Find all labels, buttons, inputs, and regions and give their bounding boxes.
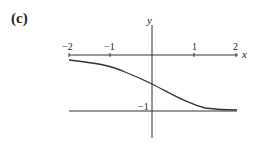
curve	[69, 60, 237, 110]
y-axis-label: y	[146, 14, 152, 26]
x-axis-label: x	[241, 48, 247, 60]
x-tick-2: 2	[233, 41, 238, 52]
x-tick-neg2: −2	[62, 41, 73, 52]
x-tick-neg1: −1	[104, 41, 115, 52]
x-tick-1: 1	[192, 41, 197, 52]
graph: (c) y x −2 −1 1 2 −1	[0, 0, 254, 144]
y-tick-neg1: −1	[138, 101, 149, 112]
panel-label: (c)	[11, 10, 28, 27]
